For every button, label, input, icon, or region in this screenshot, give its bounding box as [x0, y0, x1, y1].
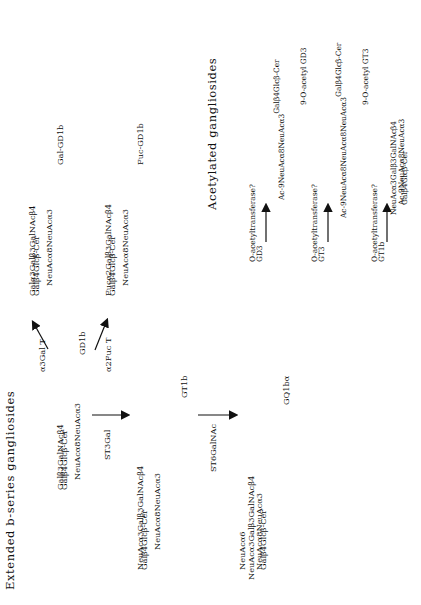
enzyme-a2fuct: α2Fuc T [104, 338, 113, 372]
label-fuc-gd1b: Fuc-GD1b [136, 123, 145, 165]
gq1ba-line2b: Galβ4Glcβ-Cer [259, 476, 268, 570]
acetyl-gt3-line1a: Ac-9NeuAcα8NeuAcα8NeuAcα3 [339, 97, 348, 218]
acetyl-gd3-line1a: Ac-9NeuAcα8NeuAcα3 [277, 114, 286, 200]
structure-fuc-gd1b: Fucα2Galβ3GalNAcβ4Galβ4Glcβ-Cer NeuAcα8N… [104, 204, 130, 296]
acetyl-gt3-enzyme: O-acetyltransferase? [311, 184, 319, 262]
heading-extended-b-series: Extended b-series gangliosides [4, 391, 16, 590]
acetyl-gt3-source: GT3 [318, 246, 326, 262]
acetyl-gd3-structure: Ac-9NeuAcα8NeuAcα3Galβ4Glcβ-Cer [278, 59, 286, 200]
label-gt1b: GT1b [180, 376, 189, 398]
fuc-gd1b-line2: NeuAcα8NeuAcα3 [121, 204, 130, 296]
structure-gd1b: Galβ3GalNAcβ4Galβ4Glcβ-Cer NeuAcα8NeuAcα… [56, 403, 82, 490]
acetyl-gt3-structure: Ac-9NeuAcα8NeuAcα8NeuAcα3Galβ4Glcβ-Cer [340, 43, 348, 218]
gd1b-line2: NeuAcα8NeuAcα3 [73, 403, 82, 490]
enzyme-st3gal: ST3Gal [103, 430, 112, 460]
acetyl-gt1b-enzyme: O-acetyltransferase? [371, 184, 379, 262]
acetyl-gt1b-line2b: Galβ4Glcβ-Cer [401, 119, 409, 205]
enzyme-a3galt: α3Gal T [38, 339, 47, 372]
acetyl-gd3-line1b: Galβ4Glcβ-Cer [272, 59, 281, 113]
acetyl-gd3-enzyme: O-acetyltransferase? [249, 184, 257, 262]
label-gal-gd1b: Gal-GD1b [56, 125, 65, 165]
acetyl-gt1b-structure: NeuAcα3Galβ3GalNAcβ4 Ac-9NeuAcα8NeuAcα3G… [390, 119, 413, 215]
acetyl-gd3-source: GD3 [256, 245, 264, 262]
enzyme-st6galnac: ST6GalNAc [209, 424, 218, 472]
structure-gal-gd1b: Galα3Galβ3GalNAcβ4Galβ4Glcβ-Cer NeuAcα8N… [28, 206, 54, 296]
label-gq1ba: GQ1bα [282, 376, 291, 405]
gd1b-line1b: Galβ4Glcβ-Cer [60, 403, 69, 490]
gal-gd1b-line2: NeuAcα8NeuAcα3 [45, 206, 54, 296]
label-gd1b: GD1b [78, 331, 87, 355]
structure-gq1ba: NeuAcα6 NeuAcα3Galβ3GalNAcβ4 NeuAcα8NeuA… [238, 476, 272, 580]
gt1b-line2: NeuAcα8NeuAcα3 [153, 466, 162, 570]
gal-gd1b-line1b: Galβ4Glcβ-Cer [32, 206, 41, 296]
structure-gt1b: NeuAcα3Galβ3GalNAcβ4Galβ4Glcβ-Cer NeuAcα… [136, 466, 162, 570]
acetyl-gd3-name: 9-O-acetyl GD3 [300, 48, 308, 105]
acetyl-gt3-line1b: Galβ4Glcβ-Cer [334, 43, 343, 97]
acetyl-gt3-name: 9-O-acetyl GT3 [362, 49, 370, 105]
acetyl-gt1b-source: GT1b [378, 242, 386, 262]
fuc-gd1b-line1b: Galβ4Glcβ-Cer [108, 204, 117, 296]
gt1b-line1b: Galβ4Glcβ-Cer [140, 466, 149, 570]
heading-acetylated: Acetylated gangliosides [206, 58, 218, 210]
